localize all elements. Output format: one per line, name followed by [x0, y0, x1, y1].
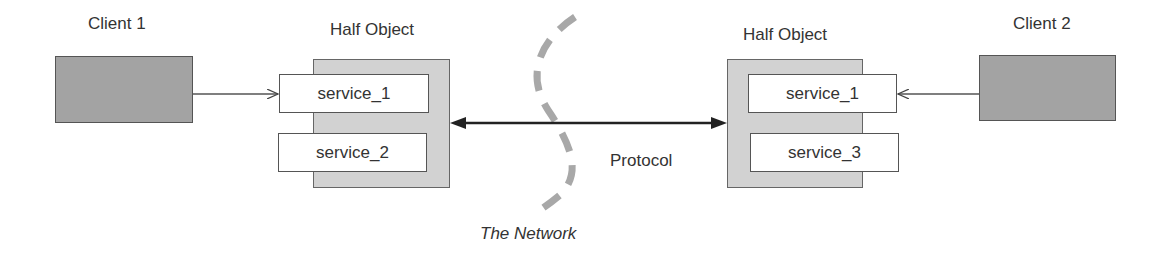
left-service-2: service_2	[278, 133, 427, 172]
network-boundary	[533, 17, 575, 215]
left-half-object-label: Half Object	[330, 20, 414, 40]
connectors	[0, 0, 1167, 255]
client-2-box	[979, 55, 1116, 121]
protocol-arrowhead-right	[711, 117, 727, 129]
network-label: The Network	[480, 224, 576, 244]
right-service-3: service_3	[750, 133, 899, 172]
protocol-arrowhead-left	[450, 117, 466, 129]
client-1-box	[55, 56, 193, 123]
client-2-label: Client 2	[1013, 14, 1071, 34]
protocol-label: Protocol	[610, 151, 672, 171]
right-service-1: service_1	[748, 74, 897, 113]
left-service-1: service_1	[279, 74, 429, 113]
client-1-label: Client 1	[88, 14, 146, 34]
right-half-object-label: Half Object	[743, 25, 827, 45]
